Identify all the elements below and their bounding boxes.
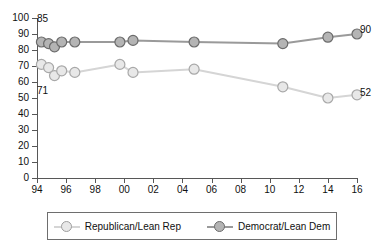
y-tick-label: 20 [0,141,29,151]
x-tick-label: 06 [200,185,224,195]
y-tick-label: 50 [0,93,29,103]
x-tick [66,178,67,183]
y-axis-line [37,18,38,179]
annotation-dem-start: 85 [37,14,48,24]
x-tick-label: 02 [141,185,165,195]
y-tick [32,98,37,99]
data-point [70,37,80,47]
line-chart: 0102030405060708090100 94969800020406081… [0,0,381,249]
y-tick [32,146,37,147]
x-tick [124,178,125,183]
annotation-rep-start: 71 [37,86,48,96]
data-point [128,35,138,45]
y-tick [32,114,37,115]
x-tick [241,178,242,183]
x-tick-label: 96 [54,185,78,195]
y-tick-label: 0 [0,173,29,183]
x-tick [357,178,358,183]
x-tick-label: 00 [112,185,136,195]
series-line [41,34,357,47]
x-tick [153,178,154,183]
series-line [41,64,357,98]
x-tick [182,178,183,183]
x-tick [212,178,213,183]
data-point [278,39,288,49]
y-tick [32,66,37,67]
annotation-dem-end: 90 [360,25,371,35]
x-tick-label: 10 [258,185,282,195]
data-point [50,42,60,52]
legend-item-republican[interactable]: Republican/Lean Rep [54,220,181,233]
y-tick-label: 40 [0,109,29,119]
data-point [278,82,288,92]
x-tick [328,178,329,183]
x-tick-label: 12 [287,185,311,195]
y-tick [32,50,37,51]
y-tick-label: 70 [0,61,29,71]
x-tick [37,178,38,183]
x-tick-label: 16 [345,185,369,195]
data-point [57,66,67,76]
data-point [50,71,60,81]
y-tick-label: 80 [0,45,29,55]
x-tick [270,178,271,183]
chart-legend: Republican/Lean Rep Democrat/Lean Dem [47,212,337,240]
x-tick [299,178,300,183]
y-tick [32,162,37,163]
data-point [189,37,199,47]
x-tick-label: 94 [25,185,49,195]
x-axis-line [37,178,357,179]
y-tick-label: 10 [0,157,29,167]
y-tick [32,34,37,35]
legend-marker-democrat-icon [207,220,233,233]
data-point [70,67,80,77]
y-tick-label: 30 [0,125,29,135]
x-tick-label: 08 [229,185,253,195]
y-tick-label: 100 [0,13,29,23]
data-point [115,37,125,47]
data-point [128,67,138,77]
y-tick-label: 90 [0,29,29,39]
legend-item-democrat[interactable]: Democrat/Lean Dem [207,220,330,233]
data-point [323,32,333,42]
legend-label-democrat: Democrat/Lean Dem [238,221,330,232]
data-point [115,59,125,69]
x-tick-label: 98 [83,185,107,195]
x-tick-label: 14 [316,185,340,195]
legend-marker-republican-icon [54,220,80,233]
x-tick-label: 04 [170,185,194,195]
data-point [44,63,54,73]
legend-label-republican: Republican/Lean Rep [85,221,181,232]
data-point [57,37,67,47]
data-point [189,64,199,74]
y-tick-label: 60 [0,77,29,87]
data-point [44,39,54,49]
data-point [323,93,333,103]
y-tick [32,82,37,83]
y-tick [32,130,37,131]
annotation-rep-end: 52 [360,88,371,98]
x-tick [95,178,96,183]
